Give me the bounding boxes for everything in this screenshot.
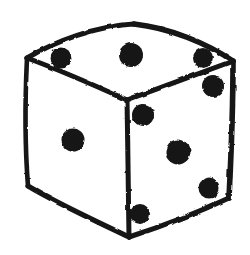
die-illustration <box>0 0 250 255</box>
right-face-pip-bottom-right <box>199 178 220 199</box>
right-face-pip-top-right <box>202 75 224 97</box>
left-face-pip-center <box>62 129 85 152</box>
right-face-pip-center <box>166 140 191 165</box>
drawing-canvas <box>0 0 250 255</box>
edge-vertical-left <box>26 58 28 186</box>
right-face-pip-bottom-left <box>130 204 150 224</box>
top-face-pip-right <box>193 48 213 68</box>
edge-vertical-center <box>127 100 129 237</box>
top-face-pip-left <box>51 48 72 69</box>
top-face-pip-mid <box>119 43 143 67</box>
right-face-pip-top-left <box>132 104 154 126</box>
